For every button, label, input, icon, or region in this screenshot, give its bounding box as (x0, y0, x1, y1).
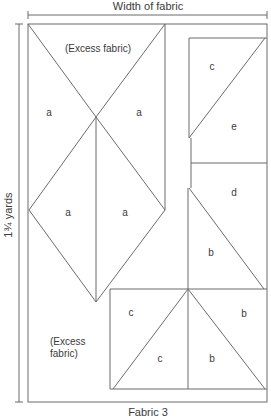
piece-a-label: a (65, 207, 71, 218)
height-dimension (15, 24, 23, 402)
excess-fabric-top-label: (Excess fabric) (65, 43, 131, 54)
piece-a-label: a (46, 107, 52, 118)
piece-c-label: c (210, 61, 215, 72)
piece-e-label: e (231, 121, 237, 132)
a-pieces-diamond (29, 117, 165, 302)
width-dimension (28, 11, 267, 19)
cutting-diagram: Width of fabric 1¾ yards (0, 0, 271, 417)
excess-fabric-bottom-label: (Excess (50, 336, 86, 347)
piece-b-label: b (209, 353, 215, 364)
caption: Fabric 3 (128, 406, 168, 417)
piece-a-label: a (136, 107, 142, 118)
piece-c-label: c (129, 307, 134, 318)
piece-b-label: b (208, 247, 214, 258)
piece-b-label: b (241, 308, 247, 319)
width-label: Width of fabric (113, 0, 184, 12)
height-label: 1¾ yards (2, 192, 14, 238)
piece-a-label: a (122, 207, 128, 218)
c-e-block (189, 38, 267, 188)
piece-d-label: d (231, 187, 237, 198)
excess-fabric-bottom-label: fabric) (50, 348, 78, 359)
piece-c-label: c (158, 353, 163, 364)
